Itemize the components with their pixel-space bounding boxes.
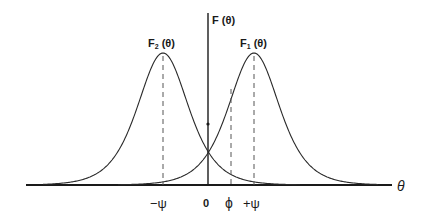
curve-f1 (118, 53, 378, 185)
curve-f1-label: F1 (θ) (240, 37, 267, 50)
intersection-point (206, 122, 209, 125)
curve-f2 (43, 53, 300, 185)
theta-axis-label: θ (397, 178, 405, 194)
tick-minus-psi: −ψ (150, 196, 167, 211)
tick-plus-psi: +ψ (243, 196, 260, 211)
f-axis-label: F (θ) (212, 14, 235, 26)
curve-f2-label: F2 (θ) (148, 37, 175, 50)
diagram-canvas: F (θ) F2 (θ) F1 (θ) θ −ψ 0 ϕ +ψ (0, 0, 423, 218)
tick-phi: ϕ (225, 195, 233, 211)
tick-zero: 0 (203, 197, 209, 209)
